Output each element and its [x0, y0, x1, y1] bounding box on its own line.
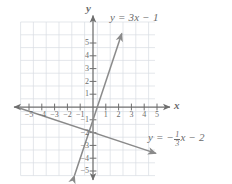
x-tick-neg5: −5	[23, 110, 35, 119]
equation-label-line1: y = 3x − 1	[110, 11, 159, 23]
y-tick-5: 5	[81, 38, 89, 47]
x-tick-5: 5	[153, 110, 161, 119]
equation-label-line2: y = −13x − 2	[148, 131, 205, 148]
y-tick-neg1: −1	[77, 115, 89, 124]
y-tick-4: 4	[81, 51, 89, 60]
equation2-suffix: x − 2	[180, 131, 204, 143]
y-tick-2: 2	[81, 77, 89, 86]
y-tick-3: 3	[81, 64, 89, 73]
x-tick-4: 4	[140, 110, 148, 119]
x-tick-2: 2	[115, 110, 123, 119]
y-tick-neg4: −4	[77, 154, 89, 163]
y-tick-neg3: −3	[77, 141, 89, 150]
y-tick-1: 1	[81, 89, 89, 98]
x-tick-3: 3	[127, 110, 135, 119]
x-tick-neg3: −3	[49, 110, 61, 119]
y-tick-neg5: −5	[77, 166, 89, 175]
equation2-prefix: y = −	[148, 131, 174, 143]
x-tick-neg2: −2	[61, 110, 73, 119]
x-tick-neg4: −4	[36, 110, 48, 119]
coordinate-plane-svg	[0, 0, 232, 184]
y-tick-neg2: −2	[77, 128, 89, 137]
y-axis-label: y	[86, 2, 91, 14]
graph-figure: y x y = 3x − 1 y = −13x − 2 1 2 3 4 5 −5…	[0, 0, 232, 184]
x-tick-1: 1	[102, 110, 110, 119]
x-axis-label: x	[174, 99, 180, 111]
